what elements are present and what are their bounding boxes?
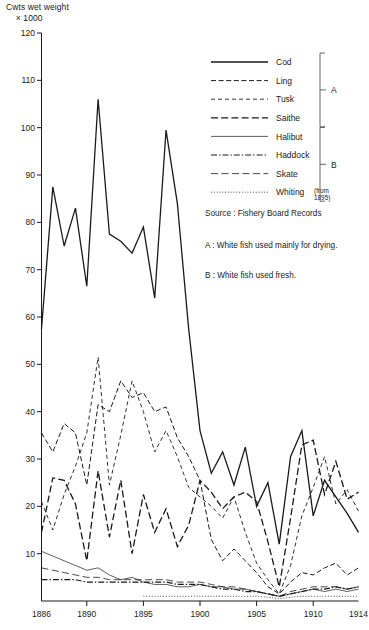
y-tick-label: 10: [26, 549, 36, 559]
y-tick-label: 100: [21, 123, 35, 133]
series-line-ling: [42, 381, 359, 594]
series-line-cod: [42, 99, 359, 544]
legend-label-saithe: Saithe: [276, 113, 300, 123]
series-line-whiting: [143, 596, 358, 598]
x-tick-label: 1890: [77, 609, 96, 619]
legend-label-halibut: Halibut: [276, 132, 303, 142]
y-tick-label: 60: [26, 312, 36, 322]
y-tick-label: 120: [21, 28, 35, 38]
line-chart: 1020304050607080901001101201886189018951…: [0, 0, 369, 630]
legend-bracket-label-b: B: [331, 160, 337, 170]
y-tick-label: 80: [26, 217, 36, 227]
y-tick-label: 30: [26, 454, 36, 464]
y-tick-label: 90: [26, 170, 36, 180]
series-line-saithe: [42, 440, 359, 587]
chart-page: Cwts wet weight × 1000 10203040506070809…: [0, 0, 369, 630]
note-b: B : White fish used fresh.: [205, 271, 296, 280]
y-tick-label: 110: [21, 75, 35, 85]
legend-label-skate: Skate: [276, 169, 298, 179]
x-tick-label: 1910: [304, 609, 323, 619]
x-tick-label: 1900: [191, 609, 210, 619]
y-tick-label: 70: [26, 265, 36, 275]
x-tick-label: 1886: [32, 609, 51, 619]
y-tick-label: 20: [26, 501, 36, 511]
note-a: A : White fish used mainly for drying.: [205, 241, 337, 250]
legend-label-cod: Cod: [276, 57, 292, 67]
series-line-halibut: [42, 551, 359, 596]
legend-label-tusk: Tusk: [276, 94, 295, 104]
x-tick-label: 1895: [134, 609, 153, 619]
y-tick-label: 40: [26, 407, 36, 417]
x-tick-label: 1905: [247, 609, 266, 619]
legend-whiting-note-line2: 1895): [314, 194, 330, 202]
y-tick-label: 50: [26, 359, 36, 369]
legend-label-haddock: Haddock: [276, 150, 310, 160]
series-line-tusk: [42, 357, 359, 594]
legend-label-whiting: Whiting: [276, 187, 305, 197]
chart-axes: [42, 33, 359, 601]
source-note: Source : Fishery Board Records: [205, 209, 322, 218]
legend-label-ling: Ling: [276, 76, 292, 86]
x-tick-label: 1914: [349, 609, 368, 619]
legend-bracket-label-a: A: [331, 85, 337, 95]
